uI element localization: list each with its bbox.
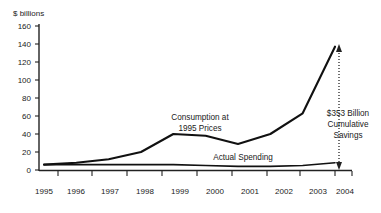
consumption-annotation: Consumption at 1995 Prices <box>171 113 229 133</box>
y-axis-tick-labels: 160 140 120 100 80 60 40 20 0 <box>18 22 32 175</box>
consumption-label-line2: 1995 Prices <box>178 124 221 133</box>
y-tick-label: 0 <box>27 166 32 175</box>
x-tick-label: 1997 <box>101 187 119 196</box>
x-tick-label: 1996 <box>67 187 85 196</box>
x-tick-label: 2003 <box>309 187 327 196</box>
y-axis-title: $ billions <box>13 9 44 18</box>
consumption-label-line1: Consumption at <box>171 113 229 122</box>
y-tick-label: 40 <box>22 130 31 139</box>
x-tick-label: 1999 <box>171 187 189 196</box>
x-tick-label: 2000 <box>206 187 224 196</box>
savings-label-line2: Cumulative <box>328 120 369 129</box>
x-axis-tick-labels: 1995 1996 1997 1998 1999 2000 2001 2002 … <box>35 187 354 196</box>
y-tick-label: 100 <box>18 76 32 85</box>
savings-annotation: $353 Billion Cumulative Savings <box>327 109 370 140</box>
y-tick-label: 20 <box>22 148 31 157</box>
savings-label-line1: $353 Billion <box>327 109 370 118</box>
chart-figure: $ billions 160 140 120 100 80 60 40 20 <box>0 0 381 213</box>
series-line-consumption <box>44 47 335 165</box>
series-line-actual-spending <box>44 163 335 167</box>
actual-spending-label: Actual Spending <box>213 153 273 162</box>
x-tick-label: 2004 <box>336 187 354 196</box>
x-tick-label: 2001 <box>241 187 259 196</box>
x-tick-label: 2002 <box>275 187 293 196</box>
x-tick-label: 1995 <box>35 187 53 196</box>
y-tick-label: 120 <box>18 58 32 67</box>
arrow-head-up <box>336 44 342 52</box>
y-tick-label: 60 <box>22 112 31 121</box>
savings-label-line3: Savings <box>333 131 362 140</box>
cumulative-savings-arrow <box>336 44 342 170</box>
y-tick-label: 160 <box>18 22 32 31</box>
actual-spending-annotation: Actual Spending <box>213 153 273 162</box>
y-tick-label: 140 <box>18 40 32 49</box>
x-axis-ticks <box>58 171 352 176</box>
y-tick-label: 80 <box>22 94 31 103</box>
line-chart-svg: $ billions 160 140 120 100 80 60 40 20 <box>0 0 381 213</box>
arrow-head-down <box>336 162 342 170</box>
x-tick-label: 1998 <box>136 187 154 196</box>
